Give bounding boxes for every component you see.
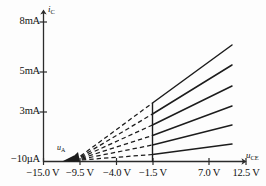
curve-1 (153, 45, 233, 103)
curve-4 (153, 106, 233, 136)
y-tick-label-3ma: 3mA (0, 105, 40, 116)
dashed-curve-3 (75, 125, 153, 161)
curve-3 (153, 86, 233, 125)
y-axis-label: iC (48, 4, 55, 14)
curve-5 (153, 125, 233, 145)
x-axis-label: uCE (246, 150, 259, 160)
dashed-curve-1 (75, 103, 153, 161)
dashed-curve-5 (75, 145, 153, 161)
y-tick-label-5ma: 5mA (0, 65, 40, 76)
y-tick-label-minus-10ua: −10µA (0, 153, 40, 164)
x-tick-label-12-5v: 12.5 V (217, 167, 266, 178)
x-tick-label-minus-1-5v: −1.5 V (124, 167, 182, 178)
y-axis-label-sub: C (51, 8, 55, 15)
dashed-curve-2 (75, 114, 153, 161)
transistor-output-characteristics-chart: 8mA 5mA 3mA −10µA −15.0 V −9.5 V −4.0 V … (0, 0, 266, 186)
x-axis-label-sub: CE (251, 154, 259, 161)
output-characteristic-curves (153, 45, 233, 155)
dashed-extrapolation-fan (75, 103, 153, 161)
dashed-curve-4 (75, 136, 153, 161)
x-axis-label-base: u (246, 150, 251, 160)
curve-2 (153, 65, 233, 114)
curve-6 (153, 144, 233, 155)
dashed-curve-6 (75, 155, 153, 161)
fan-origin-wedge (62, 152, 80, 162)
fan-origin-label-sub: A (61, 147, 65, 153)
fan-origin-label: uA (57, 143, 65, 152)
y-tick-label-8ma: 8mA (0, 15, 40, 26)
